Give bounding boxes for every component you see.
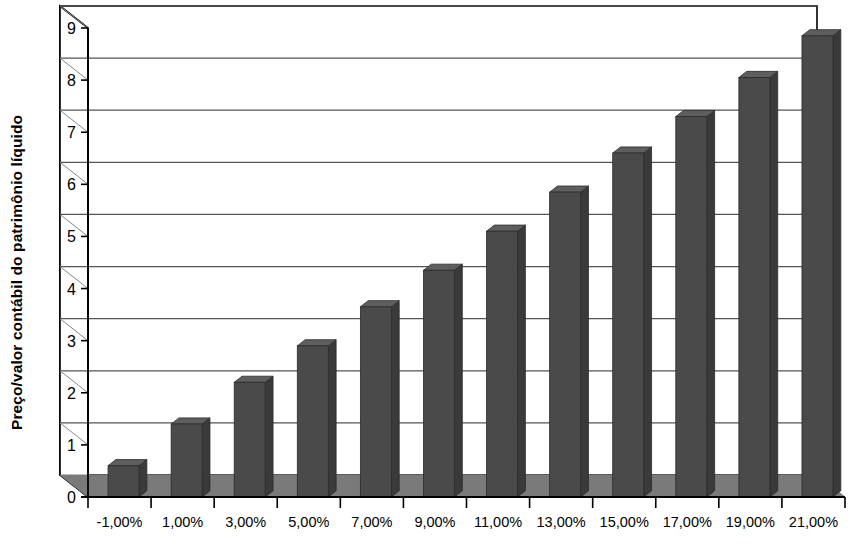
x-tick-label: 17,00% — [663, 514, 712, 530]
x-tick-label: 11,00% — [474, 514, 522, 530]
x-tick-label: 7,00% — [351, 514, 392, 530]
bar-11[interactable] — [739, 71, 778, 497]
bar-10[interactable] — [676, 110, 715, 497]
x-tick-labels: -1,00%1,00%3,00%5,00%7,00%9,00%11,00%13,… — [88, 497, 845, 530]
bar-6[interactable] — [423, 264, 462, 497]
y-tick-label: 8 — [67, 72, 76, 89]
x-tick-label: 5,00% — [288, 514, 329, 530]
bar-8[interactable] — [550, 186, 589, 497]
bar-2[interactable] — [171, 418, 210, 497]
x-tick-label: -1,00% — [97, 514, 143, 530]
bar-5[interactable] — [360, 301, 399, 497]
bar-1[interactable] — [108, 460, 147, 497]
x-tick-label: 1,00% — [162, 514, 203, 530]
bar-3[interactable] — [234, 376, 273, 497]
chart-figure: Preço/valor contábil do patrimônio líqui… — [0, 0, 859, 545]
y-tick-label: 0 — [67, 489, 76, 506]
bar-12[interactable] — [802, 30, 841, 497]
bar-9[interactable] — [613, 147, 652, 497]
x-tick-label: 9,00% — [414, 514, 455, 530]
bar-chart-canvas: 0123456789-1,00%1,00%3,00%5,00%7,00%9,00… — [0, 0, 859, 545]
y-tick-label: 3 — [67, 333, 76, 350]
y-tick-label: 5 — [67, 228, 76, 245]
x-tick-label: 15,00% — [600, 514, 649, 530]
x-tick-label: 21,00% — [789, 514, 838, 530]
y-tick-label: 4 — [67, 281, 76, 298]
y-tick-label: 2 — [67, 385, 76, 402]
bar-7[interactable] — [487, 225, 526, 497]
y-tick-label: 6 — [67, 176, 76, 193]
y-tick-label: 7 — [67, 124, 76, 141]
bar-4[interactable] — [297, 340, 336, 497]
x-tick-label: 19,00% — [726, 514, 775, 530]
y-tick-label: 9 — [67, 20, 76, 37]
x-tick-label: 13,00% — [537, 514, 586, 530]
y-tick-label: 1 — [67, 437, 76, 454]
x-tick-label: 3,00% — [225, 514, 266, 530]
